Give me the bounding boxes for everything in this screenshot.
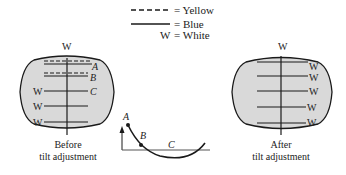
tilt-adjustment-diagram: = Yellow = Blue W = White W A B C W W W …: [0, 0, 346, 175]
after-screen: W W W W W W After tilt adjustment: [232, 41, 332, 162]
point-b: [139, 143, 143, 147]
before-caption-1: Before: [54, 139, 82, 150]
label-w-1: W: [33, 86, 43, 97]
convergence-curve: A B C: [120, 111, 211, 158]
before-screen: W A B C W W W Before tilt adjustment: [20, 41, 114, 162]
curve-label-b: B: [140, 130, 146, 141]
label-b: B: [90, 72, 96, 83]
label-w-2: W: [33, 101, 43, 112]
after-label-w-4: W: [307, 102, 317, 113]
after-top-label: W: [278, 41, 288, 52]
after-caption-1: After: [270, 139, 292, 150]
label-c: C: [90, 86, 97, 97]
before-top-label: W: [62, 41, 72, 52]
point-a: [126, 123, 130, 127]
after-label-w-5: W: [307, 117, 317, 128]
after-label-w-2: W: [309, 72, 319, 83]
before-caption-2: tilt adjustment: [39, 151, 97, 162]
legend: = Yellow = Blue W = White: [131, 4, 214, 41]
legend-yellow-label: = Yellow: [174, 4, 214, 16]
after-label-w-3: W: [309, 86, 319, 97]
label-w-3: W: [33, 117, 43, 128]
legend-white-label: = White: [174, 29, 210, 41]
legend-white-symbol: W: [160, 29, 171, 41]
after-label-w-1: W: [309, 61, 319, 72]
label-a: A: [91, 61, 99, 72]
after-caption-2: tilt adjustment: [252, 151, 310, 162]
curve-label-a: A: [122, 111, 130, 122]
curve-label-c: C: [168, 139, 175, 150]
up-arrow-icon: [120, 126, 125, 133]
